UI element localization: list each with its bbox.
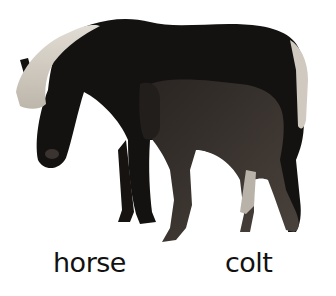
- horse-and-colt-figure: horse colt: [0, 0, 336, 296]
- label-horse: horse: [53, 249, 126, 276]
- label-colt: colt: [225, 249, 272, 276]
- horse-colt-illustration: [0, 0, 336, 296]
- colt-silhouette: [139, 79, 299, 242]
